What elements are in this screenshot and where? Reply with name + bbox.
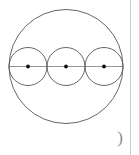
figure-page: Three congruent circles inscribed along … [0, 0, 139, 155]
page-edge-rule [130, 0, 131, 155]
center-dot-left [26, 65, 30, 69]
center-dot-right [102, 65, 106, 69]
center-dot-middle [64, 65, 68, 69]
closing-paren-mark: ) [112, 128, 128, 148]
